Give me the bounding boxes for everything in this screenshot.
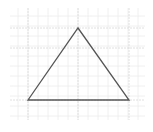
grid-triangle-diagram [0, 0, 153, 132]
triangle-shape [28, 28, 129, 100]
grid [10, 8, 145, 120]
diagram-canvas [0, 0, 153, 132]
